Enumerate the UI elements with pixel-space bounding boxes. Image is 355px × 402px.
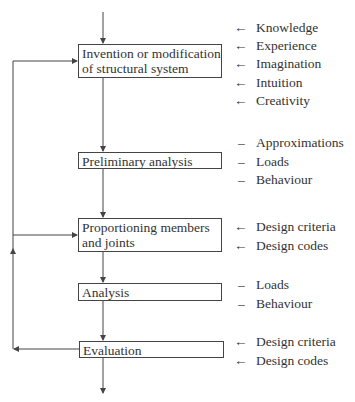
input-item: ←Design codes [234, 351, 336, 370]
input-item: –Approximations [234, 134, 344, 153]
step-label-line: and joints [82, 235, 221, 250]
input-item: –Behaviour [234, 171, 344, 190]
step-label-line: of structural system [82, 61, 221, 76]
input-item: ←Imagination [234, 55, 321, 73]
input-item: ←Knowledge [234, 19, 321, 37]
input-list-preliminary: –Approximations –Loads –Behaviour [234, 134, 344, 190]
dash-icon: – [234, 294, 256, 313]
left-arrow-icon: ← [234, 92, 256, 110]
step-label-line: Invention or modification [82, 46, 221, 61]
step-label-line: Evaluation [83, 343, 223, 358]
left-arrow-icon: ← [234, 217, 256, 236]
left-arrow-icon: ← [234, 332, 256, 351]
left-arrow-icon: ← [234, 351, 256, 370]
input-list-invention: ←Knowledge ←Experience ←Imagination ←Int… [234, 19, 321, 110]
step-label-line: Proportioning members [82, 220, 221, 235]
input-item: –Behaviour [234, 294, 312, 313]
input-item: –Loads [234, 275, 312, 294]
input-item: ←Design codes [234, 236, 336, 255]
input-item: ←Experience [234, 37, 321, 55]
dash-icon: – [234, 275, 256, 294]
dash-icon: – [234, 134, 256, 153]
step-preliminary-box: Preliminary analysis [78, 152, 222, 169]
dash-icon: – [234, 171, 256, 190]
input-list-analysis: –Loads –Behaviour [234, 275, 312, 313]
input-item: ←Design criteria [234, 217, 336, 236]
step-label-line: Preliminary analysis [82, 154, 221, 169]
input-list-evaluation: ←Design criteria ←Design codes [234, 332, 336, 370]
left-arrow-icon: ← [234, 236, 256, 255]
left-arrow-icon: ← [234, 74, 256, 92]
input-item: –Loads [234, 153, 344, 172]
step-proportioning-box: Proportioning members and joints [78, 218, 222, 252]
input-item: ←Design criteria [234, 332, 336, 351]
input-item: ←Intuition [234, 74, 321, 92]
left-arrow-icon: ← [234, 19, 256, 37]
left-arrow-icon: ← [234, 37, 256, 55]
step-analysis-box: Analysis [78, 283, 222, 301]
input-item: ←Creativity [234, 92, 321, 110]
step-invention-box: Invention or modification of structural … [78, 44, 222, 78]
left-arrow-icon: ← [234, 55, 256, 73]
input-list-proportioning: ←Design criteria ←Design codes [234, 217, 336, 255]
step-evaluation-box: Evaluation [79, 341, 224, 358]
dash-icon: – [234, 153, 256, 172]
step-label-line: Analysis [82, 285, 221, 300]
